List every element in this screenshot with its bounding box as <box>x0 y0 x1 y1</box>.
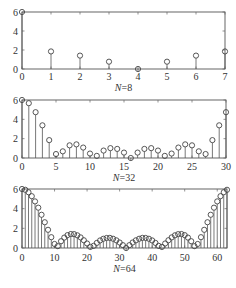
stem-marker <box>67 143 72 148</box>
y-tick-label: 4 <box>13 114 18 125</box>
y-tick-label: 4 <box>13 203 18 214</box>
stem-marker <box>210 138 215 143</box>
stem-marker <box>179 231 184 236</box>
x-tick-label: 7 <box>223 71 228 82</box>
stem-marker <box>163 241 168 246</box>
x-tick-label: 15 <box>119 161 129 172</box>
stem-marker <box>39 212 44 217</box>
stem-marker <box>29 194 34 199</box>
x-tick-label: 5 <box>165 71 170 82</box>
y-tick-label: 6 <box>13 7 18 18</box>
stem-marker <box>198 235 203 240</box>
stem-marker <box>135 150 140 155</box>
x-tick-label: 25 <box>187 161 197 172</box>
x-tick-label: 2 <box>78 71 83 82</box>
stem-marker <box>81 145 86 150</box>
x-tick-label: 4 <box>136 71 141 82</box>
stem-marker <box>183 142 188 147</box>
x-tick-label: 0 <box>20 71 25 82</box>
axes-box <box>22 12 225 69</box>
x-tick-label: 20 <box>82 252 92 263</box>
x-tick-label: 30 <box>115 252 125 263</box>
stem-marker <box>32 199 37 204</box>
stem-marker <box>149 146 154 151</box>
x-tick-label: 20 <box>153 161 163 172</box>
stem-marker <box>203 151 208 156</box>
stem-marker <box>81 238 86 243</box>
stem-marker <box>176 145 181 150</box>
x-tick-label: 0 <box>20 252 25 263</box>
stem-marker <box>166 238 171 243</box>
stem-marker <box>189 239 194 244</box>
stem-marker <box>208 212 213 217</box>
stem-marker <box>26 101 31 106</box>
y-tick-label: 2 <box>13 223 18 234</box>
stem-marker <box>169 151 174 156</box>
stem-marker <box>60 149 65 154</box>
y-tick-label: 0 <box>13 64 18 75</box>
stem-marker <box>47 138 52 143</box>
stem-marker <box>45 227 50 232</box>
x-tick-label: 40 <box>147 252 157 263</box>
stem-marker <box>42 220 47 225</box>
y-tick-label: 4 <box>13 26 18 37</box>
axes-box <box>22 100 226 158</box>
y-tick-label: 2 <box>13 45 18 56</box>
stem-marker <box>155 148 160 153</box>
x-axis-label: N=32 <box>112 172 135 183</box>
x-tick-label: 0 <box>20 161 25 172</box>
stem-marker <box>121 150 126 155</box>
x-tick-label: 30 <box>221 161 231 172</box>
stem-marker <box>36 205 41 210</box>
stem-marker <box>164 59 169 64</box>
stem-marker <box>74 142 79 147</box>
stem-marker <box>108 146 113 151</box>
y-tick-label: 6 <box>13 95 18 106</box>
stem-marker <box>189 143 194 148</box>
subplot-n32: 0510152025300246N=32 <box>13 95 231 184</box>
x-tick-label: 10 <box>50 252 60 263</box>
stem-marker <box>48 49 53 54</box>
y-tick-label: 6 <box>13 184 18 195</box>
stem-marker <box>77 53 82 58</box>
stem-marker <box>142 146 147 151</box>
y-tick-label: 0 <box>13 243 18 254</box>
stem-marker <box>107 235 112 240</box>
x-tick-label: 10 <box>85 161 95 172</box>
stem-marker <box>115 146 120 151</box>
stem-marker <box>215 199 220 204</box>
stem-marker <box>211 205 216 210</box>
x-tick-label: 3 <box>107 71 112 82</box>
stem-marker <box>106 59 111 64</box>
x-tick-label: 50 <box>180 252 190 263</box>
y-tick-label: 2 <box>13 133 18 144</box>
stem-marker <box>40 123 45 128</box>
stem-plot-figure: 012345670246N=8 0510152025300246N=32 010… <box>0 0 236 288</box>
stem-marker <box>101 148 106 153</box>
stem-marker <box>196 149 201 154</box>
subplot-n8: 012345670246N=8 <box>13 7 228 94</box>
stem-marker <box>193 53 198 58</box>
x-axis-label: N=64 <box>112 263 135 274</box>
stem-marker <box>202 227 207 232</box>
y-tick-label: 0 <box>13 153 18 164</box>
stem-marker <box>87 151 92 156</box>
subplot-n64: 01020304050600246N=64 <box>13 184 230 275</box>
x-tick-label: 60 <box>212 252 222 263</box>
x-tick-label: 1 <box>49 71 54 82</box>
stem-marker <box>111 236 116 241</box>
x-tick-label: 5 <box>54 161 59 172</box>
x-tick-label: 6 <box>194 71 199 82</box>
stem-marker <box>137 236 142 241</box>
stem-marker <box>49 235 54 240</box>
stem-marker <box>33 110 38 115</box>
stem-marker <box>71 232 76 237</box>
x-axis-label: N=8 <box>114 82 132 93</box>
stem-marker <box>205 220 210 225</box>
stem-marker <box>217 123 222 128</box>
